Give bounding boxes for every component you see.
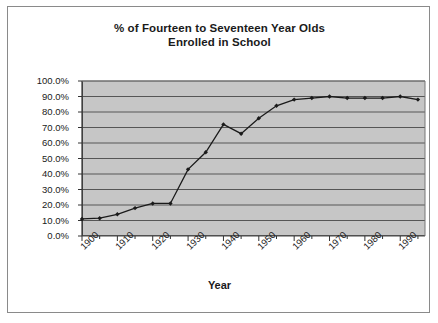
y-axis-tick-label: 50.0%: [42, 153, 69, 164]
chart-canvas: [74, 74, 425, 236]
y-axis-tick-label: 100.0%: [37, 75, 69, 86]
y-axis-tick-label: 20.0%: [42, 199, 69, 210]
y-axis-tick-label: 60.0%: [42, 137, 69, 148]
y-axis-tick-label: 80.0%: [42, 106, 69, 117]
y-axis-tick-label: 30.0%: [42, 184, 69, 195]
y-axis-tick-label: 0.0%: [47, 230, 69, 241]
y-axis-tick-label: 90.0%: [42, 91, 69, 102]
chart-frame: % of Fourteen to Seventeen Year Olds Enr…: [7, 6, 430, 313]
x-axis-title: Year: [8, 279, 431, 291]
y-axis-tick-label: 10.0%: [42, 215, 69, 226]
chart-title-line-2: Enrolled in School: [8, 35, 431, 49]
chart-title: % of Fourteen to Seventeen Year Olds Enr…: [8, 21, 431, 49]
chart-title-line-1: % of Fourteen to Seventeen Year Olds: [8, 21, 431, 35]
y-axis-tick-label: 40.0%: [42, 168, 69, 179]
y-axis-tick-label: 70.0%: [42, 122, 69, 133]
plot-area: 0.0%10.0%20.0%30.0%40.0%50.0%60.0%70.0%8…: [74, 74, 425, 236]
